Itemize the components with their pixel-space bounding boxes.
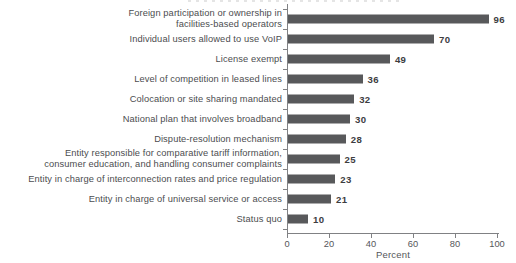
bar (287, 95, 354, 104)
category-label: Entity in charge of universal service or… (0, 194, 282, 205)
x-axis-tick-label: 60 (398, 239, 428, 249)
x-axis-line (287, 233, 499, 234)
bar-row: Individual users allowed to use VoIP70 (0, 29, 516, 49)
bar-row: Entity responsible for comparative tarif… (0, 149, 516, 169)
y-axis-tick (283, 49, 287, 50)
bar (287, 75, 363, 84)
x-axis-tick (413, 234, 414, 238)
value-label: 96 (494, 14, 505, 25)
y-axis-tick (283, 129, 287, 130)
y-axis-line (287, 4, 288, 233)
y-axis-tick (283, 209, 287, 210)
value-label: 21 (336, 194, 347, 205)
bar (287, 215, 308, 224)
x-axis-title: Percent (287, 249, 499, 260)
y-axis-tick (283, 189, 287, 190)
category-label: Level of competition in leased lines (0, 74, 282, 85)
x-axis-tick (329, 234, 330, 238)
category-label: Individual users allowed to use VoIP (0, 34, 282, 45)
category-label: Foreign participation or ownership in fa… (0, 8, 282, 29)
bar-row: Status quo10 (0, 209, 516, 229)
x-axis-tick-label: 20 (314, 239, 344, 249)
x-axis-tick (287, 234, 288, 238)
x-axis-tick (497, 234, 498, 238)
value-label: 23 (340, 174, 351, 185)
y-axis-tick (283, 9, 287, 10)
value-label: 32 (359, 94, 370, 105)
category-label: Entity in charge of interconnection rate… (0, 174, 282, 185)
bar (287, 35, 434, 44)
category-label: National plan that involves broadband (0, 114, 282, 125)
x-axis-tick-label: 40 (356, 239, 386, 249)
x-axis-tick-label: 80 (440, 239, 470, 249)
bar-row: Entity in charge of interconnection rate… (0, 169, 516, 189)
category-label: License exempt (0, 54, 282, 65)
bar-row: National plan that involves broadband30 (0, 109, 516, 129)
category-label: Dispute-resolution mechanism (0, 134, 282, 145)
value-label: 70 (439, 34, 450, 45)
bar-row: License exempt49 (0, 49, 516, 69)
cropped-title-fragment (188, 0, 403, 2)
x-axis-tick (455, 234, 456, 238)
value-label: 36 (368, 74, 379, 85)
value-label: 49 (395, 54, 406, 65)
bar-chart: Foreign participation or ownership in fa… (0, 0, 516, 263)
bar (287, 175, 335, 184)
category-label: Colocation or site sharing mandated (0, 94, 282, 105)
x-axis-tick (371, 234, 372, 238)
value-label: 10 (313, 214, 324, 225)
y-axis-tick (283, 229, 287, 230)
bar (287, 115, 350, 124)
y-axis-tick (283, 69, 287, 70)
bar-row: Dispute-resolution mechanism28 (0, 129, 516, 149)
bar (287, 15, 489, 24)
bar (287, 155, 340, 164)
bar-row: Foreign participation or ownership in fa… (0, 9, 516, 29)
y-axis-tick (283, 149, 287, 150)
bar (287, 195, 331, 204)
bar-row: Level of competition in leased lines36 (0, 69, 516, 89)
value-label: 28 (351, 134, 362, 145)
x-axis-tick-label: 100 (482, 239, 512, 249)
y-axis-tick (283, 109, 287, 110)
bar (287, 55, 390, 64)
y-axis-tick (283, 169, 287, 170)
category-label: Status quo (0, 214, 282, 225)
bar-row: Colocation or site sharing mandated32 (0, 89, 516, 109)
category-label: Entity responsible for comparative tarif… (0, 148, 282, 169)
y-axis-tick (283, 89, 287, 90)
bar (287, 135, 346, 144)
x-axis-tick-label: 0 (272, 239, 302, 249)
y-axis-tick (283, 29, 287, 30)
value-label: 30 (355, 114, 366, 125)
bar-row: Entity in charge of universal service or… (0, 189, 516, 209)
value-label: 25 (345, 154, 356, 165)
